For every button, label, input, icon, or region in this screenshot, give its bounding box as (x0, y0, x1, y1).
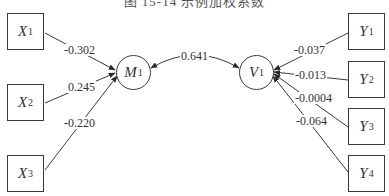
coef-x1-m1: -0.302 (63, 44, 96, 56)
node-x2-var: X (18, 94, 27, 111)
path-diagram: 图 15-14 示例加权系数 X1 (0, 0, 389, 196)
node-x3: X3 (7, 155, 44, 192)
coef-m1-v1: 0.641 (180, 50, 209, 62)
node-y3-var: Y (359, 118, 367, 135)
node-v1: V1 (239, 55, 274, 90)
node-y3-sub: 3 (369, 121, 374, 132)
node-m1-var: M (124, 64, 137, 81)
node-v1-var: V (249, 64, 258, 81)
node-m1-sub: 1 (138, 67, 143, 78)
node-x1-var: X (18, 23, 27, 40)
node-m1: M1 (116, 55, 151, 90)
node-y3: Y3 (348, 108, 385, 145)
coef-y1-v1: -0.037 (293, 44, 326, 56)
node-y1-var: Y (359, 23, 367, 40)
node-y4: Y4 (348, 155, 385, 192)
coef-y3-v1: -0.0004 (294, 92, 333, 104)
coef-x3-m1: -0.220 (63, 117, 96, 129)
node-x1-sub: 1 (28, 26, 33, 37)
node-y1: Y1 (348, 13, 385, 50)
coef-y4-v1: -0.064 (295, 115, 328, 127)
node-x2-sub: 2 (28, 97, 33, 108)
node-x1: X1 (7, 13, 44, 50)
node-x3-sub: 3 (28, 168, 33, 179)
node-y4-var: Y (359, 165, 367, 182)
node-y2: Y2 (348, 61, 385, 98)
node-y2-sub: 2 (369, 74, 374, 85)
node-x2: X2 (7, 84, 44, 121)
node-y4-sub: 4 (369, 168, 374, 179)
node-v1-sub: 1 (259, 67, 264, 78)
coef-y2-v1: -0.013 (294, 69, 327, 81)
node-x3-var: X (18, 165, 27, 182)
node-y1-sub: 1 (369, 26, 374, 37)
coef-x2-m1: 0.245 (67, 81, 96, 93)
node-y2-var: Y (359, 71, 367, 88)
